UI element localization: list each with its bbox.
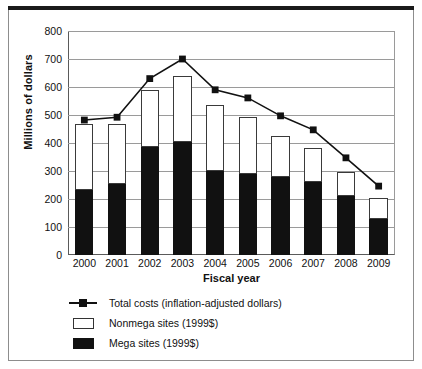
legend-item-nonmega-sites: Nonmega sites (1999$) xyxy=(63,313,393,333)
line-marker xyxy=(146,75,153,82)
line-marker xyxy=(244,95,251,102)
y-tick-label: 400 xyxy=(44,137,62,149)
x-axis-tick-labels: 2000200120022003200420052006200720082009 xyxy=(68,257,395,273)
total-costs-line-series xyxy=(68,31,395,255)
line-marker xyxy=(277,112,284,119)
legend-label: Total costs (inflation-adjusted dollars) xyxy=(109,297,282,309)
x-tick-label: 2001 xyxy=(105,257,128,269)
legend: Total costs (inflation-adjusted dollars)… xyxy=(63,293,393,353)
plot-area xyxy=(68,31,395,255)
y-tick-label: 0 xyxy=(56,249,62,261)
y-tick-label: 200 xyxy=(44,193,62,205)
y-tick-label: 300 xyxy=(44,165,62,177)
y-tick-label: 700 xyxy=(44,53,62,65)
legend-item-mega-sites: Mega sites (1999$) xyxy=(63,333,393,353)
line-marker xyxy=(343,154,350,161)
x-tick-label: 2008 xyxy=(334,257,357,269)
line-marker xyxy=(179,56,186,63)
legend-item-total-costs: Total costs (inflation-adjusted dollars) xyxy=(63,293,393,313)
y-tick-label: 600 xyxy=(44,81,62,93)
x-tick-label: 2007 xyxy=(302,257,325,269)
line-marker xyxy=(212,86,219,93)
open-swatch-icon xyxy=(63,318,103,329)
x-tick-label: 2005 xyxy=(236,257,259,269)
y-tick-label: 100 xyxy=(44,221,62,233)
y-tick-label: 500 xyxy=(44,109,62,121)
x-tick-label: 2006 xyxy=(269,257,292,269)
line-path xyxy=(84,59,378,186)
x-tick-label: 2000 xyxy=(73,257,96,269)
x-tick-label: 2002 xyxy=(138,257,161,269)
x-tick-label: 2009 xyxy=(367,257,390,269)
y-tick-label: 800 xyxy=(44,25,62,37)
legend-label: Mega sites (1999$) xyxy=(109,337,199,349)
line-marker-icon xyxy=(63,298,103,308)
y-axis-tick-labels: 0100200300400500600700800 xyxy=(28,31,62,255)
line-marker xyxy=(81,117,88,124)
line-marker xyxy=(114,114,121,121)
line-marker xyxy=(375,183,382,190)
legend-label: Nonmega sites (1999$) xyxy=(109,317,218,329)
x-axis-title: Fiscal year xyxy=(68,272,395,284)
x-tick-label: 2004 xyxy=(203,257,226,269)
line-marker xyxy=(310,126,317,133)
solid-swatch-icon xyxy=(63,338,103,349)
x-tick-label: 2003 xyxy=(171,257,194,269)
figure-container: Millions of dollars 01002003004005006007… xyxy=(0,0,422,369)
